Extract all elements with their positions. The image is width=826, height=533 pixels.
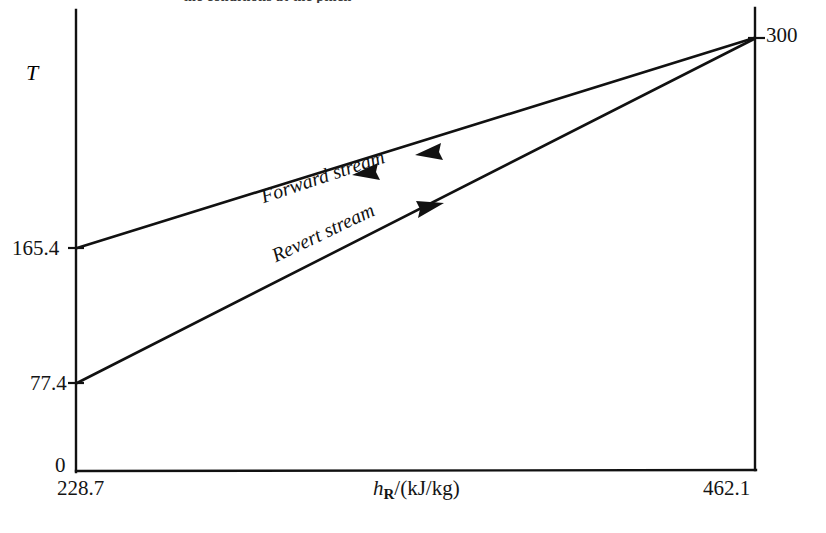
figure-container: the conditions at the pinch T 165.4 77.4… — [0, 0, 826, 533]
chart-plot-area — [0, 0, 826, 533]
x-axis-title-units: /(kJ/kg) — [394, 476, 459, 500]
arrow-forward-stream-2 — [415, 143, 443, 160]
y-tick-label-300: 300 — [766, 25, 798, 46]
y-tick-label-165: 165.4 — [12, 238, 59, 259]
x-axis-line — [76, 470, 756, 471]
series-line-forward-stream — [77, 38, 754, 248]
series-line-revert-stream — [77, 39, 754, 383]
arrow-revert-stream-1 — [416, 201, 444, 218]
x-tick-label-228: 228.7 — [57, 478, 104, 499]
x-axis-title-symbol: h — [373, 476, 384, 500]
y-axis-title: T — [26, 62, 38, 84]
y-tick-label-77: 77.4 — [30, 373, 67, 394]
x-axis-title-subscript: R — [384, 486, 395, 502]
x-tick-label-462: 462.1 — [703, 478, 750, 499]
x-axis-title: hR/(kJ/kg) — [373, 478, 460, 502]
y-tick-label-0: 0 — [55, 455, 66, 476]
